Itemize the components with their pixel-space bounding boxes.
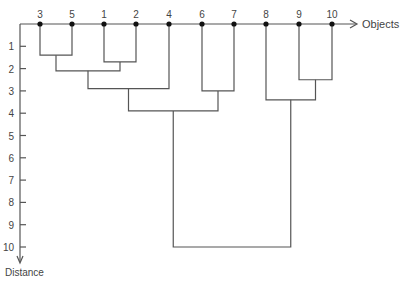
y-axis-label: Distance [5, 267, 44, 278]
y-tick-label: 4 [8, 108, 14, 119]
dendrogram: 12345678910 35124678910 Objects Distance [0, 0, 402, 281]
y-tick-label: 8 [8, 197, 14, 208]
y-ticks: 12345678910 [3, 41, 26, 253]
axes [17, 20, 357, 263]
branch [129, 89, 219, 111]
branch [88, 24, 169, 89]
leaf-node-icon [296, 21, 301, 26]
leaf-label: 6 [199, 9, 205, 20]
leaf-node-icon [231, 21, 236, 26]
leaf-node-icon [329, 21, 334, 26]
branches [40, 24, 332, 247]
y-tick-label: 6 [8, 153, 14, 164]
y-tick-label: 2 [8, 64, 14, 75]
y-tick-label: 5 [8, 131, 14, 142]
leaf-node-icon [199, 21, 204, 26]
branch [40, 24, 72, 55]
leaf-label: 3 [37, 9, 43, 20]
x-axis-label: Objects [362, 18, 400, 30]
leaf-label: 1 [101, 9, 107, 20]
leaf-label: 4 [166, 9, 172, 20]
branch [299, 24, 332, 80]
y-tick-label: 10 [3, 242, 15, 253]
leaf-label: 5 [69, 9, 75, 20]
leaf-node-icon [263, 21, 268, 26]
branch [202, 24, 234, 91]
leaf-label: 7 [231, 9, 237, 20]
leaf-label: 2 [133, 9, 139, 20]
leaf-node-icon [69, 21, 74, 26]
y-tick-label: 3 [8, 86, 14, 97]
leaf-node-icon [133, 21, 138, 26]
leaf-label: 10 [326, 9, 338, 20]
y-tick-label: 1 [8, 41, 14, 52]
branch [104, 24, 136, 62]
branch [56, 55, 120, 71]
leaf-label: 9 [296, 9, 302, 20]
y-tick-label: 7 [8, 175, 14, 186]
leaf-node-icon [166, 21, 171, 26]
branch [173, 100, 291, 247]
y-tick-label: 9 [8, 220, 14, 231]
leaf-node-icon [101, 21, 106, 26]
leaf-node-icon [37, 21, 42, 26]
branch [266, 24, 316, 100]
leaf-label: 8 [263, 9, 269, 20]
